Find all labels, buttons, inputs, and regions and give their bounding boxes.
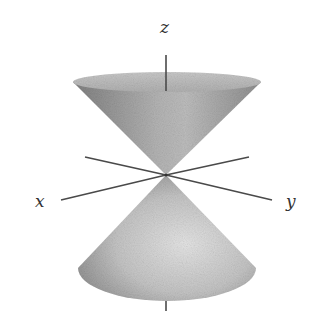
double-cone-figure: z x y <box>0 0 315 329</box>
origin-point <box>165 174 168 177</box>
y-axis-label: y <box>286 193 296 210</box>
z-axis-label: z <box>160 19 169 36</box>
lower-nappe <box>78 175 256 301</box>
upper-nappe <box>73 72 261 175</box>
x-axis-label: x <box>35 193 45 210</box>
figure-canvas <box>0 0 315 329</box>
